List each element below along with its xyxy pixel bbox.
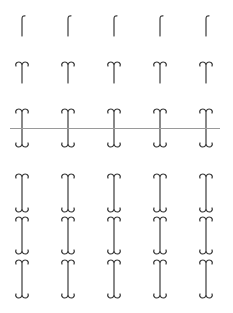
glyph-full-1	[106, 173, 122, 213]
glyph-full-3	[152, 259, 168, 299]
glyph-full-3	[60, 259, 76, 299]
glyph-double-curl-top	[106, 61, 122, 83]
baseline-rule	[10, 128, 220, 129]
glyph-full-1	[14, 173, 30, 213]
glyph-double-curl-top	[14, 61, 30, 83]
glyph-full-2	[106, 216, 122, 255]
glyph-double-curl-top	[198, 61, 214, 83]
glyph-full-1	[60, 173, 76, 213]
glyph-full-3	[14, 259, 30, 299]
glyph-hook-top	[152, 15, 168, 36]
glyph-full-2	[152, 216, 168, 255]
glyph-hook-top	[14, 15, 30, 36]
glyph-full-2	[14, 216, 30, 255]
glyph-full-3	[106, 259, 122, 299]
glyph-hook-top	[198, 15, 214, 36]
glyph-hook-top	[106, 15, 122, 36]
glyph-full-2	[60, 216, 76, 255]
glyph-double-curl-top	[60, 61, 76, 83]
glyph-hook-top	[60, 15, 76, 36]
glyph-full-2	[198, 216, 214, 255]
glyph-full-1	[152, 173, 168, 213]
glyph-full-1	[198, 173, 214, 213]
glyph-double-curl-top	[152, 61, 168, 83]
page-caption	[18, 0, 70, 2]
glyph-full-3	[198, 259, 214, 299]
